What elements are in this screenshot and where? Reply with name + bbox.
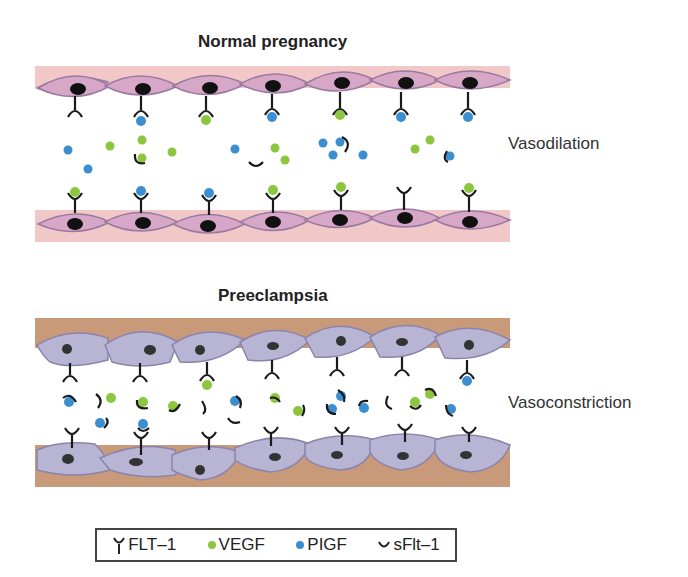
sflt1-molecules [63, 389, 453, 431]
bound-ligands-bottom [70, 182, 474, 198]
bound-ligands-top [136, 110, 473, 126]
normal-pregnancy-diagram [0, 0, 688, 250]
legend-label-vegf: VEGF [219, 535, 265, 555]
legend-label-pigf: PIGF [307, 535, 347, 555]
legend-item-vegf: VEGF [207, 535, 265, 555]
vasodilation-label: Vasodilation [508, 134, 599, 154]
vegf-dot-icon [207, 540, 217, 550]
flt1-receptor-icon [112, 535, 126, 555]
legend-label-sflt1: sFlt–1 [393, 535, 439, 555]
legend-item-sflt1: sFlt–1 [377, 535, 439, 555]
vasoconstriction-label: Vasoconstriction [508, 393, 631, 413]
pigf-dot-icon [295, 540, 305, 550]
legend-item-pigf: PIGF [295, 535, 347, 555]
legend: FLT–1 VEGF PIGF sFlt–1 [95, 528, 457, 562]
sflt1-free [135, 137, 448, 166]
legend-item-flt1: FLT–1 [112, 535, 176, 555]
free-ligands-with-sflt1 [64, 389, 456, 429]
bound-ligands-top [202, 376, 472, 390]
preeclampsia-title: Preeclampsia [218, 286, 328, 306]
sflt1-arc-icon [377, 539, 391, 551]
free-ligands [64, 136, 455, 174]
legend-label-flt1: FLT–1 [128, 535, 176, 555]
